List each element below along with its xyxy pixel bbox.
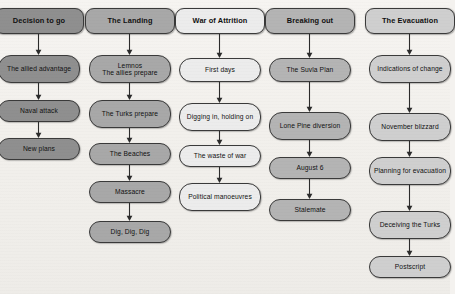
step-node[interactable]: Planning for evacuation	[369, 157, 451, 185]
column-the-evacuation: The EvacuationIndications of changeNovem…	[365, 0, 455, 294]
step-node[interactable]: The waste of war	[179, 145, 261, 167]
step-label: Lemnos The allies prepare	[102, 62, 157, 77]
arrow-connector	[33, 83, 44, 100]
step-label: November blizzard	[381, 123, 438, 131]
step-label: Lone Pine diversion	[280, 122, 341, 130]
step-label: The allied advantage	[7, 65, 71, 73]
column-the-landing: The LandingLemnos The allies prepareThe …	[85, 0, 175, 294]
step-node[interactable]: Deceiving the Turks	[369, 211, 451, 239]
step-label: The Turks prepare	[102, 110, 158, 118]
step-node[interactable]: November blizzard	[369, 113, 451, 141]
step-label: August 6	[296, 164, 323, 172]
step-node[interactable]: First days	[179, 58, 261, 82]
column-war-of-attrition: War of AttritionFirst daysDigging in, ho…	[175, 0, 265, 294]
step-node[interactable]: Political manoeuvres	[179, 183, 261, 211]
step-node[interactable]: The allied advantage	[0, 55, 80, 83]
step-label: First days	[205, 66, 235, 74]
step-node[interactable]: Lemnos The allies prepare	[89, 55, 171, 83]
arrow-connector	[124, 203, 135, 221]
arrow-connector	[404, 34, 415, 55]
arrow-connector	[304, 179, 315, 199]
arrow-connector	[214, 131, 225, 145]
step-label: The Beaches	[110, 150, 151, 158]
step-label: Stalemate	[294, 206, 325, 214]
step-label: Political manoeuvres	[188, 193, 252, 201]
step-node[interactable]: Dig, Dig, Dig	[89, 221, 171, 243]
step-label: Naval attack	[20, 107, 58, 115]
arrow-connector	[404, 185, 415, 211]
step-node[interactable]: Massacre	[89, 181, 171, 203]
step-node[interactable]: New plans	[0, 138, 80, 160]
step-node[interactable]: Lone Pine diversion	[269, 112, 351, 140]
step-node[interactable]: The Beaches	[89, 143, 171, 165]
arrow-connector	[124, 34, 135, 55]
column-header-the-landing[interactable]: The Landing	[85, 8, 175, 34]
column-header-decision-to-go[interactable]: Decision to go	[0, 8, 84, 34]
step-label: Digging in, holding on	[187, 113, 254, 121]
column-header-breaking-out[interactable]: Breaking out	[265, 8, 355, 34]
step-node[interactable]: The Turks prepare	[89, 100, 171, 128]
arrow-connector	[214, 82, 225, 103]
step-label: Massacre	[115, 188, 145, 196]
arrow-connector	[404, 83, 415, 113]
column-header-war-of-attrition[interactable]: War of Attrition	[175, 8, 265, 34]
column-header-the-evacuation[interactable]: The Evacuation	[365, 8, 455, 34]
step-node[interactable]: Naval attack	[0, 100, 80, 122]
step-label: Planning for evacuation	[374, 167, 446, 175]
column-decision-to-go: Decision to goThe allied advantageNaval …	[0, 0, 84, 294]
arrow-connector	[214, 167, 225, 183]
step-node[interactable]: Stalemate	[269, 199, 351, 221]
arrow-connector	[304, 34, 315, 58]
step-node[interactable]: The Suvla Plan	[269, 58, 351, 82]
step-node[interactable]: Digging in, holding on	[179, 103, 261, 131]
arrow-connector	[404, 239, 415, 256]
step-node[interactable]: Postscript	[369, 256, 451, 278]
step-label: The waste of war	[194, 152, 247, 160]
step-node[interactable]: Indications of change	[369, 55, 451, 83]
step-label: New plans	[23, 145, 55, 153]
arrow-connector	[404, 141, 415, 157]
arrow-connector	[124, 83, 135, 100]
arrow-connector	[33, 34, 44, 55]
arrow-connector	[124, 128, 135, 143]
arrow-connector	[214, 34, 225, 58]
step-label: Postscript	[395, 263, 425, 271]
arrow-connector	[304, 82, 315, 112]
step-label: Deceiving the Turks	[380, 221, 441, 229]
step-label: Dig, Dig, Dig	[111, 228, 150, 236]
column-breaking-out: Breaking outThe Suvla PlanLone Pine dive…	[265, 0, 355, 294]
arrow-connector	[304, 140, 315, 157]
step-node[interactable]: August 6	[269, 157, 351, 179]
arrow-connector	[33, 122, 44, 138]
step-label: The Suvla Plan	[287, 66, 334, 74]
arrow-connector	[124, 165, 135, 181]
step-label: Indications of change	[377, 65, 442, 73]
